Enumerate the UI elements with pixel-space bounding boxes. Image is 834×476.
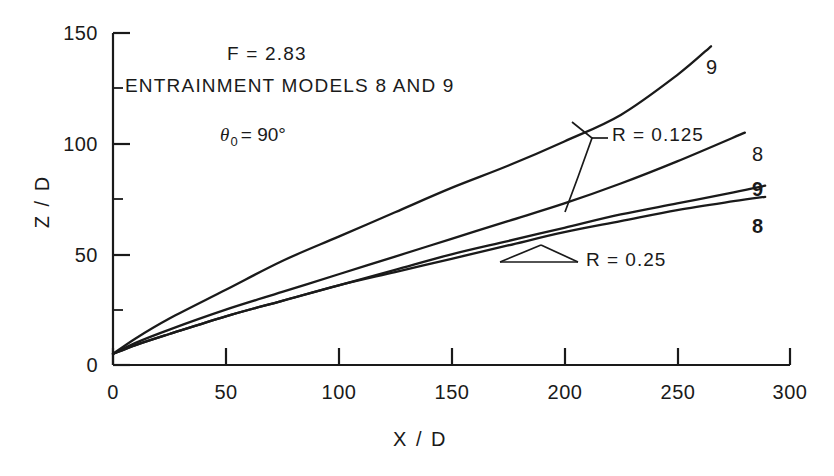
curve-tag-model8-lower: 8 <box>752 215 763 238</box>
leader-r-0125 <box>565 122 608 212</box>
y-tick-label-150: 150 <box>42 22 98 45</box>
x-tick-label-50: 50 <box>214 381 237 404</box>
annotation-froude-number: F = 2.83 <box>227 43 307 65</box>
annotation-ratio-025: R = 0.25 <box>586 249 666 271</box>
y-tick-label-100: 100 <box>42 133 98 156</box>
theta-symbol: θ <box>220 124 231 145</box>
x-tick-label-100: 100 <box>322 381 357 404</box>
figure-container: 150 100 50 0 0 50 100 150 200 250 300 X … <box>0 0 834 476</box>
curve-8-R0_25 <box>113 197 765 354</box>
y-tick-label-50: 50 <box>42 244 98 267</box>
curve-tag-model9-upper: 9 <box>706 56 717 79</box>
x-tick-label-150: 150 <box>435 381 470 404</box>
x-tick-label-300: 300 <box>773 381 808 404</box>
x-tick-label-0: 0 <box>107 381 119 404</box>
theta-subscript: 0 <box>231 134 238 149</box>
annotation-entrainment-models: ENTRAINMENT MODELS 8 AND 9 <box>125 75 455 97</box>
x-axis-title: X / D <box>393 428 447 451</box>
x-tick-label-200: 200 <box>548 381 583 404</box>
angle-value: = 90° <box>241 124 286 145</box>
x-axis-ticks <box>113 348 790 365</box>
annotation-ratio-0125: R = 0.125 <box>612 124 704 146</box>
leader-r-025 <box>500 245 578 262</box>
curve-tag-model8-upper: 8 <box>752 143 763 166</box>
y-tick-label-0: 0 <box>42 354 98 377</box>
y-axis-title: Z / D <box>31 162 54 242</box>
annotation-discharge-angle: θ0= 90° <box>220 124 286 149</box>
curve-tag-model9-lower: 9 <box>752 178 763 201</box>
x-tick-label-250: 250 <box>661 381 696 404</box>
